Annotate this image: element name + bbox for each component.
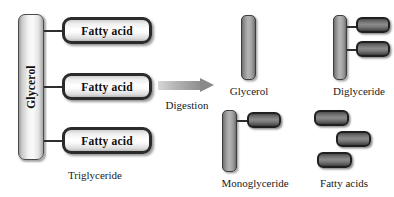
connector-fatty-acid-2	[44, 86, 64, 88]
right-arrow-icon	[158, 78, 214, 93]
monoglyceride-glycerol-bar	[222, 110, 237, 172]
connector-fatty-acid-3	[44, 140, 64, 142]
digestion-diagram: Glycerol Fatty acid Fatty acid Fatty aci…	[0, 0, 394, 197]
diglyceride-fatty-acid-chip-2	[356, 41, 390, 57]
free-fatty-acid-chip-1	[314, 110, 349, 126]
arrow-head	[200, 78, 214, 92]
fatty-acid-box-3-label: Fatty acid	[81, 135, 133, 147]
fatty-acid-box-1: Fatty acid	[62, 17, 152, 44]
product-glycerol-caption: Glycerol	[213, 86, 285, 97]
fatty-acid-box-3: Fatty acid	[62, 127, 152, 154]
glycerol-backbone-label: Glycerol	[25, 65, 37, 109]
product-glycerol-bar	[241, 15, 256, 80]
diglyceride-glycerol-bar	[333, 15, 347, 80]
monoglyceride-fatty-acid-chip-1	[247, 112, 281, 128]
triglyceride-glycerol-backbone: Glycerol	[18, 14, 44, 160]
triglyceride-caption: Triglyceride	[40, 170, 150, 181]
diglyceride-fatty-acid-chip-1	[356, 17, 390, 33]
fatty-acid-box-2-label: Fatty acid	[81, 81, 133, 93]
connector-fatty-acid-1	[44, 30, 64, 32]
monoglyceride-caption: Monoglyceride	[203, 178, 307, 189]
free-fatty-acid-chip-3	[317, 152, 352, 168]
fatty-acid-box-2: Fatty acid	[62, 73, 152, 100]
fatty-acid-box-1-label: Fatty acid	[81, 25, 133, 37]
free-fatty-acid-chip-2	[336, 131, 371, 147]
diglyceride-caption: Diglyceride	[324, 86, 394, 97]
digestion-label: Digestion	[152, 100, 222, 111]
arrow-shaft	[158, 81, 201, 90]
free-fatty-acids-caption: Fatty acids	[302, 178, 386, 189]
